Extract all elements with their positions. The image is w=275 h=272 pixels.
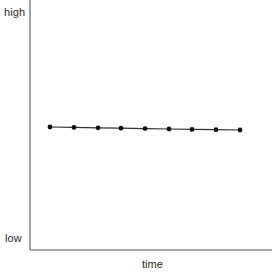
x-axis-label: time (0, 259, 275, 270)
data-point (167, 127, 172, 132)
chart-axes (30, 0, 272, 250)
y-axis-low-label: low (5, 233, 22, 244)
data-point (238, 128, 243, 133)
series-markers (48, 125, 243, 133)
data-series-value (48, 125, 243, 133)
data-point (214, 127, 219, 132)
data-point (119, 126, 124, 131)
y-axis-high-label: high (4, 7, 25, 18)
chart-container: high low time (0, 0, 275, 272)
data-point (143, 126, 148, 131)
data-point (190, 127, 195, 132)
data-point (48, 125, 53, 130)
chart-plot-area (0, 0, 275, 272)
data-point (72, 125, 77, 130)
data-point (96, 125, 101, 130)
